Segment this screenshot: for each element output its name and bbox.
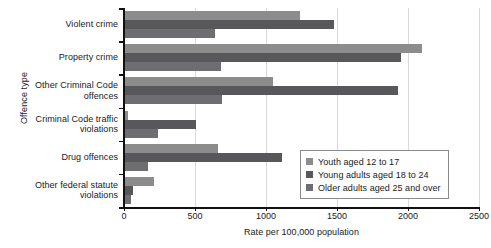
y-axis-tick [119, 141, 124, 143]
y-axis-category-label: Violent crime [18, 19, 118, 30]
legend-item: Youth aged 12 to 17 [306, 155, 441, 168]
bar [124, 144, 218, 153]
x-axis-line [124, 207, 480, 209]
y-axis-category-label: Drug offences [18, 152, 118, 163]
y-axis-category-label: Criminal Code traffic violations [18, 114, 118, 135]
y-axis-tick [119, 74, 124, 76]
bar [124, 29, 215, 38]
bar [124, 11, 300, 20]
x-axis-tick-label: 2500 [457, 211, 491, 221]
gridline [479, 8, 480, 207]
y-axis-tick [119, 8, 124, 10]
x-axis-tick-label: 1500 [315, 211, 359, 221]
y-axis-category-label: Other Criminal Code offences [18, 80, 118, 101]
x-axis-tick-label: 500 [173, 211, 217, 221]
bar [124, 20, 334, 29]
legend-swatch-icon [306, 171, 313, 178]
bar [124, 111, 128, 120]
bar [124, 120, 196, 129]
legend-swatch-icon [306, 184, 313, 191]
legend-label: Young adults aged 18 to 24 [318, 170, 429, 180]
bar [124, 177, 154, 186]
bar [124, 62, 221, 71]
y-axis-tick [119, 41, 124, 43]
bar-chart: Offence type Violent crimeProperty crime… [0, 0, 491, 248]
legend-swatch-icon [306, 158, 313, 165]
bar [124, 162, 148, 171]
bar [124, 53, 401, 62]
x-axis-title: Rate per 100,000 population [124, 227, 479, 237]
gridline [266, 8, 267, 207]
legend-label: Youth aged 12 to 17 [318, 157, 399, 167]
y-axis-category-labels: Violent crimeProperty crimeOther Crimina… [18, 8, 121, 207]
x-axis-tick-label: 1000 [244, 211, 288, 221]
y-axis-tick [119, 108, 124, 110]
y-axis-tick [119, 174, 124, 176]
legend-item: Young adults aged 18 to 24 [306, 168, 441, 181]
y-axis-category-label: Property crime [18, 52, 118, 63]
y-axis-category-label: Other federal statute violations [18, 180, 118, 201]
bar [124, 195, 131, 204]
bar [124, 44, 422, 53]
bar [124, 153, 282, 162]
bar [124, 95, 222, 104]
bar [124, 77, 273, 86]
bar [124, 186, 133, 195]
bar [124, 129, 158, 138]
legend-label: Older adults aged 25 and over [318, 183, 441, 193]
x-axis-tick-label: 2000 [386, 211, 430, 221]
legend-item: Older adults aged 25 and over [306, 181, 441, 194]
x-axis-tick-label: 0 [102, 211, 146, 221]
chart-legend: Youth aged 12 to 17Young adults aged 18 … [300, 150, 449, 199]
y-axis-tick [119, 207, 124, 209]
bar [124, 86, 398, 95]
